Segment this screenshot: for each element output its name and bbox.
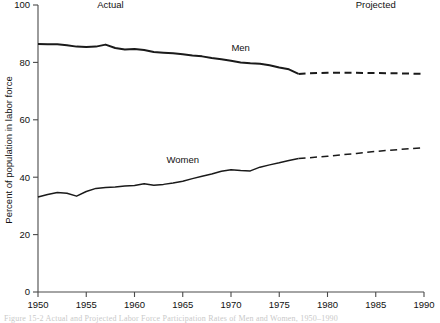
y-tick-label: 100 — [14, 0, 30, 10]
x-tick-label: 1955 — [76, 299, 97, 310]
y-axis-title: Percent of population in labor force — [3, 76, 14, 223]
x-tick-label: 1975 — [269, 299, 290, 310]
x-tick-label: 1980 — [317, 299, 338, 310]
y-tick-label: 20 — [19, 229, 30, 240]
annotation-projected: Projected — [356, 0, 396, 10]
series-label-men: Men — [231, 42, 249, 53]
y-tick-label: 60 — [19, 114, 30, 125]
x-tick-label: 1985 — [365, 299, 386, 310]
annotation-actual: Actual — [97, 0, 123, 10]
y-tick-label: 40 — [19, 172, 30, 183]
x-tick-label: 1950 — [27, 299, 48, 310]
x-tick-label: 1960 — [124, 299, 145, 310]
x-tick-label: 1990 — [413, 299, 434, 310]
x-tick-label: 1965 — [172, 299, 193, 310]
y-tick-label: 0 — [25, 286, 30, 297]
x-tick-label: 1970 — [220, 299, 241, 310]
figure-caption: Figure 15-2 Actual and Projected Labor F… — [4, 314, 338, 323]
series-label-women: Women — [166, 154, 199, 165]
y-tick-label: 80 — [19, 57, 30, 68]
